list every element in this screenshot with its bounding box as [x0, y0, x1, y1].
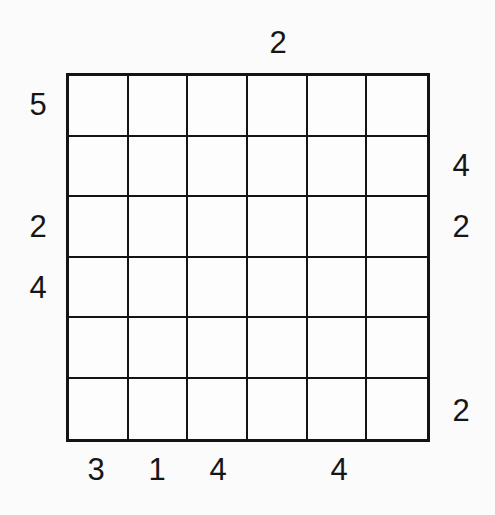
- clue-top-col-3: [205, 25, 245, 59]
- grid-cell[interactable]: [308, 379, 368, 440]
- clue-top-col-5: [326, 25, 366, 59]
- grid-cell[interactable]: [69, 318, 129, 379]
- clue-left-row-6: [18, 393, 58, 427]
- clue-left-row-4: 4: [18, 270, 58, 304]
- puzzle-grid: [66, 73, 430, 442]
- clue-left-row-3: 2: [18, 209, 58, 243]
- grid-cell[interactable]: [69, 137, 129, 198]
- clue-right-row-4: [441, 270, 481, 304]
- grid-cell[interactable]: [188, 76, 248, 137]
- grid-cell[interactable]: [69, 379, 129, 440]
- clue-top-col-1: [84, 25, 124, 59]
- puzzle-canvas: 2 5 2 4 4 2 2 3 1 4 4: [0, 0, 495, 515]
- grid-cell[interactable]: [129, 258, 189, 319]
- grid-cell[interactable]: [367, 318, 427, 379]
- grid-cell[interactable]: [248, 379, 308, 440]
- grid-cell[interactable]: [188, 258, 248, 319]
- clue-right-row-2: 4: [441, 148, 481, 182]
- clue-right-row-3: 2: [441, 209, 481, 243]
- clue-bottom-col-6: [380, 452, 420, 486]
- clue-bottom-col-5: 4: [319, 452, 359, 486]
- clue-bottom-col-3: 4: [198, 452, 238, 486]
- clue-top-col-2: [145, 25, 185, 59]
- grid-cell[interactable]: [367, 137, 427, 198]
- grid-cell[interactable]: [69, 258, 129, 319]
- clue-bottom-col-1: 3: [76, 452, 116, 486]
- grid-cell[interactable]: [69, 197, 129, 258]
- grid-cell[interactable]: [188, 137, 248, 198]
- grid-cell[interactable]: [129, 379, 189, 440]
- clue-left-row-1: 5: [18, 87, 58, 121]
- grid-cell[interactable]: [367, 258, 427, 319]
- grid-cell[interactable]: [367, 76, 427, 137]
- grid-cell[interactable]: [367, 197, 427, 258]
- grid-cell[interactable]: [129, 318, 189, 379]
- clue-right-row-5: [441, 332, 481, 366]
- grid-cell[interactable]: [248, 76, 308, 137]
- clue-right-row-6: 2: [441, 393, 481, 427]
- grid-cell[interactable]: [308, 197, 368, 258]
- clue-right-row-1: [441, 87, 481, 121]
- clue-top-col-6: [386, 25, 426, 59]
- grid-cell[interactable]: [188, 197, 248, 258]
- clue-left-row-2: [18, 148, 58, 182]
- clue-left-row-5: [18, 332, 58, 366]
- grid-cell[interactable]: [248, 137, 308, 198]
- grid-cell[interactable]: [129, 137, 189, 198]
- grid-cell[interactable]: [248, 197, 308, 258]
- grid-cell[interactable]: [188, 318, 248, 379]
- grid-cell[interactable]: [129, 76, 189, 137]
- grid-cell[interactable]: [308, 137, 368, 198]
- grid-cell[interactable]: [248, 258, 308, 319]
- grid-cell[interactable]: [188, 379, 248, 440]
- grid-cell[interactable]: [129, 197, 189, 258]
- clue-bottom-col-4: [258, 452, 298, 486]
- clue-top-col-4: 2: [258, 25, 298, 59]
- grid-cell[interactable]: [248, 318, 308, 379]
- grid-cell[interactable]: [69, 76, 129, 137]
- grid-cell[interactable]: [308, 318, 368, 379]
- clue-bottom-col-2: 1: [137, 452, 177, 486]
- grid-cell[interactable]: [308, 76, 368, 137]
- grid-cell[interactable]: [367, 379, 427, 440]
- grid-cell[interactable]: [308, 258, 368, 319]
